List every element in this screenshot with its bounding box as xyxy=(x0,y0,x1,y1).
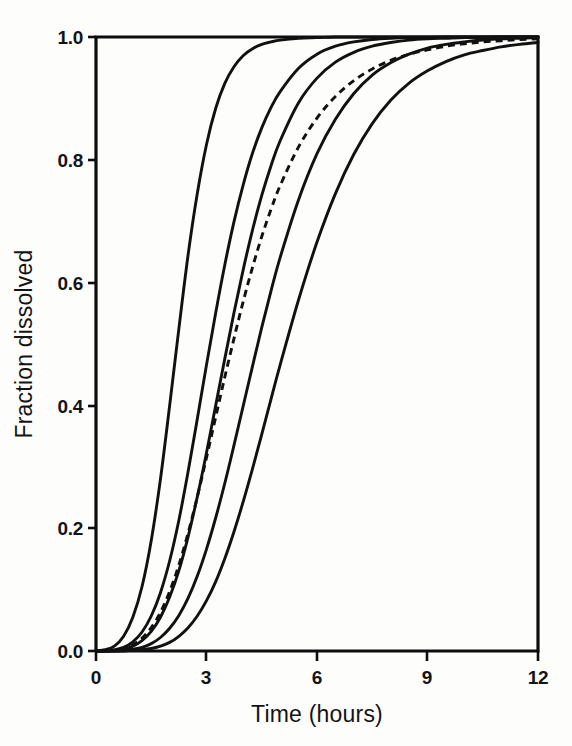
curve-5 xyxy=(96,43,538,652)
x-tick-label-1: 3 xyxy=(201,667,211,688)
axis-spines xyxy=(96,37,538,651)
y-tick-label-4: 0.8 xyxy=(57,150,83,171)
x-axis-tick-labels: 0 3 6 9 12 xyxy=(91,667,548,688)
axes-frame xyxy=(96,37,538,651)
line-chart: 1.0 0.8 0.6 0.4 0.2 0.0 0 3 6 9 12 Time … xyxy=(0,0,572,746)
y-tick-label-5: 1.0 xyxy=(57,27,83,48)
x-axis-title: Time (hours) xyxy=(251,701,383,727)
x-tick-label-0: 0 xyxy=(91,667,101,688)
x-tick-label-2: 6 xyxy=(312,667,322,688)
curve-4 xyxy=(96,38,538,651)
y-axis-title: Fraction dissolved xyxy=(11,250,37,439)
y-tick-label-3: 0.6 xyxy=(57,273,83,294)
data-curves xyxy=(96,37,538,651)
curve-3 xyxy=(96,37,538,651)
x-tick-label-4: 12 xyxy=(528,667,549,688)
y-tick-label-2: 0.4 xyxy=(57,396,83,417)
curve-dashed xyxy=(96,39,538,651)
y-axis-tick-labels: 1.0 0.8 0.6 0.4 0.2 0.0 xyxy=(57,27,83,662)
x-tick-label-3: 9 xyxy=(422,667,432,688)
y-tick-label-0: 0.0 xyxy=(57,641,83,662)
curve-2 xyxy=(96,37,538,651)
curve-1 xyxy=(96,37,538,651)
y-tick-label-1: 0.2 xyxy=(57,518,83,539)
chart-figure: 1.0 0.8 0.6 0.4 0.2 0.0 0 3 6 9 12 Time … xyxy=(0,0,572,746)
